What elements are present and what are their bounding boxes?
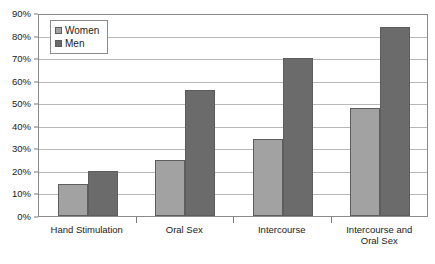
- y-axis-tick-label: 50%: [0, 99, 31, 109]
- bar-chart: 0%10%20%30%40%50%60%70%80%90% Hand Stimu…: [0, 0, 435, 264]
- bar-women: [253, 139, 283, 216]
- y-axis-tick-label: 70%: [0, 54, 31, 64]
- bar-women: [155, 160, 185, 216]
- x-axis-tick-label: Oral Sex: [136, 224, 234, 235]
- x-axis-tick-label: Hand Stimulation: [38, 224, 136, 235]
- bar-women: [58, 184, 88, 216]
- y-axis-tick-label: 30%: [0, 145, 31, 155]
- y-axis-tick-label: 20%: [0, 167, 31, 177]
- legend-item-men: Men: [55, 37, 99, 50]
- y-axis-tick-label: 0%: [0, 212, 31, 222]
- legend-swatch-men-icon: [55, 40, 62, 47]
- category-separator-tick: [136, 217, 137, 223]
- legend-item-women: Women: [55, 24, 99, 37]
- bar-men: [380, 27, 410, 216]
- bar-men: [283, 58, 313, 216]
- y-axis: 0%10%20%30%40%50%60%70%80%90%: [0, 0, 38, 264]
- y-axis-tick-label: 90%: [0, 9, 31, 19]
- legend-label-women: Women: [65, 26, 99, 36]
- category-separator-tick: [233, 217, 234, 223]
- bar-group: [155, 15, 215, 216]
- y-axis-tick-label: 10%: [0, 190, 31, 200]
- y-axis-tick-label: 40%: [0, 122, 31, 132]
- bar-group: [253, 15, 313, 216]
- x-axis-tick-label: Intercourse andOral Sex: [331, 224, 429, 246]
- x-axis: Hand StimulationOral SexIntercourseInter…: [38, 224, 428, 264]
- legend-swatch-women-icon: [55, 27, 62, 34]
- y-axis-tick-label: 60%: [0, 77, 31, 87]
- bar-men: [88, 171, 118, 216]
- category-separator-tick: [331, 217, 332, 223]
- bar-men: [185, 90, 215, 216]
- chart-legend: Women Men: [50, 20, 108, 54]
- bar-group: [350, 15, 410, 216]
- x-axis-tick-label: Intercourse: [233, 224, 331, 235]
- y-axis-tick-label: 80%: [0, 32, 31, 42]
- legend-label-men: Men: [65, 39, 84, 49]
- bar-women: [350, 108, 380, 216]
